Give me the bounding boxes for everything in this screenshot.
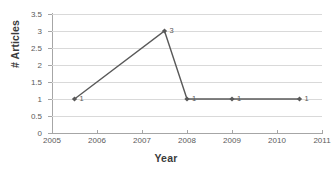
data-point-label: 3: [170, 27, 174, 35]
line-chart: # Articles 00.511.522.533.5 200520062007…: [0, 0, 332, 172]
data-point-marker: [184, 96, 189, 101]
series-line: [0, 0, 332, 172]
x-axis-title: Year: [0, 152, 332, 164]
data-point-label: 1: [305, 95, 309, 103]
data-point-marker: [229, 96, 234, 101]
data-point-marker: [297, 96, 302, 101]
data-point-label: 1: [80, 95, 84, 103]
series-polyline: [75, 31, 300, 99]
data-point-label: 1: [237, 95, 241, 103]
data-point-label: 1: [192, 95, 196, 103]
